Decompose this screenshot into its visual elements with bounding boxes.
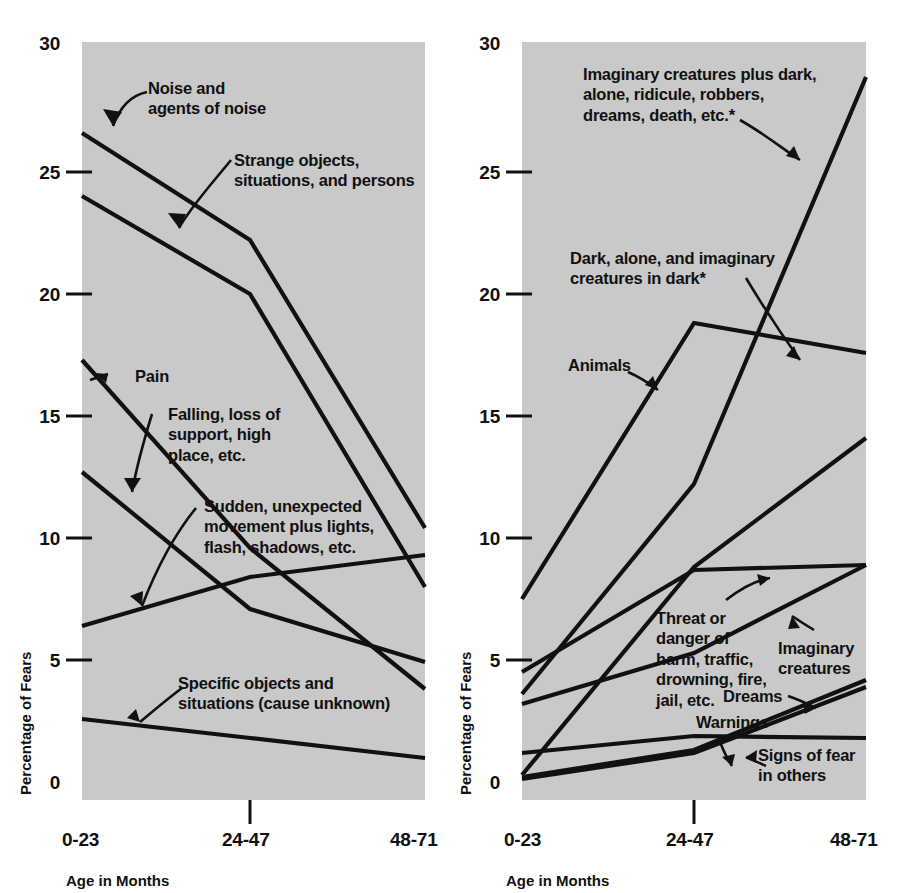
yaxis-title-left: Percentage of Fears [18, 652, 33, 795]
series-label-specific-objects-and-situations: Specific objects and situations (cause u… [178, 673, 390, 714]
yaxis-title-right: Percentage of Fears [458, 652, 473, 795]
ytick-label-left-15: 15 [20, 407, 60, 426]
series-label-pain: Pain [135, 366, 169, 386]
xaxis-title-left: Age in Months [66, 873, 169, 888]
series-label-dark-alone-and-imaginary-creatures-in-dark: Dark, alone, and imaginary creatures in … [570, 248, 775, 289]
xtick-label-left-48-71: 48-71 [390, 830, 438, 849]
xtick-label-right-24-47: 24-47 [666, 830, 714, 849]
ytick-label-right-20: 20 [460, 285, 500, 304]
ytick-label-right-15: 15 [460, 407, 500, 426]
chart-panel-right: 30 25 20 15 10 5 0 0-23 24-47 48-71 Age … [448, 0, 898, 893]
series-label-signs-of-fear-in-others: Signs of fear in others [758, 745, 855, 786]
xtick-label-left-24-47: 24-47 [222, 830, 270, 849]
ytick-label-left-20: 20 [20, 285, 60, 304]
ytick-label-left-25: 25 [20, 163, 60, 182]
series-label-falling-loss-of-support: Falling, loss of support, high place, et… [168, 404, 280, 465]
ytick-label-right-25: 25 [460, 163, 500, 182]
series-label-imaginary-creatures: Imaginary creatures [778, 638, 854, 679]
ytick-label-right-10: 10 [460, 529, 500, 548]
ytick-label-left-10: 10 [20, 529, 60, 548]
chart-panel-left: 30 25 20 15 10 5 0 0-23 24-47 48-71 Age … [0, 0, 450, 893]
xtick-label-left-0-23: 0-23 [62, 830, 99, 849]
series-label-animals: Animals [568, 355, 631, 375]
series-label-warnings: Warnings [696, 712, 769, 732]
series-label-strange-objects-situations-and-persons: Strange objects, situations, and persons [234, 150, 415, 191]
figure-two-panel-line-charts: 30 25 20 15 10 5 0 0-23 24-47 48-71 Age … [0, 0, 898, 893]
xtick-label-right-48-71: 48-71 [830, 830, 878, 849]
series-label-sudden-unexpected-movement: Sudden, unexpected movement plus lights,… [204, 496, 374, 557]
ytick-label-right-30: 30 [460, 34, 500, 53]
ytick-label-left-30: 30 [20, 34, 60, 53]
xtick-label-right-0-23: 0-23 [504, 830, 541, 849]
xaxis-title-right: Age in Months [506, 873, 609, 888]
series-label-dreams: Dreams [723, 686, 782, 706]
series-label-imaginary-creatures-plus-dark: Imaginary creatures plus dark, alone, ri… [583, 64, 816, 125]
series-label-noise-and-agents-of-noise: Noise and agents of noise [148, 78, 266, 119]
